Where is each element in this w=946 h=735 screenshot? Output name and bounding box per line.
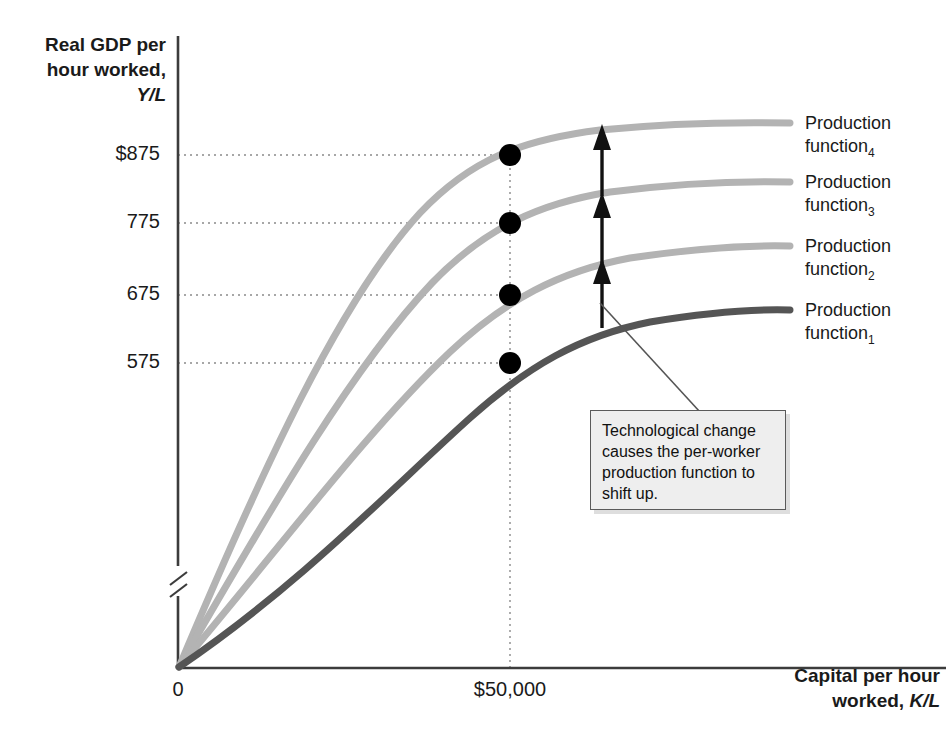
x-axis-title-line1: Capital per hour <box>620 663 940 688</box>
callout-box: Technological change causes the per-work… <box>590 410 786 510</box>
curve-label-production-function-3: Production function3 <box>805 171 891 217</box>
x-axis-title-line2: worked, K/L <box>620 688 940 713</box>
point-775 <box>499 212 521 234</box>
callout-text: Technological change causes the per-work… <box>591 411 785 504</box>
x-axis-title-symbol: K/L <box>909 690 940 711</box>
callout-line-2: causes the per-worker <box>602 441 775 462</box>
y-axis-break-icon <box>170 566 187 597</box>
curve-production-function-4 <box>179 123 790 667</box>
y-tick-label-675: 675 <box>40 282 160 305</box>
shift-arrows <box>593 124 611 328</box>
point-575 <box>499 352 521 374</box>
callout-line-3: production function to <box>602 462 775 483</box>
point-675 <box>499 284 521 306</box>
curve-label-4-line2: function4 <box>805 135 891 158</box>
point-875 <box>499 144 521 166</box>
y-tick-label-875: $875 <box>40 142 160 165</box>
y-tick-label-575: 575 <box>40 350 160 373</box>
curve-label-4-line1: Production <box>805 112 891 135</box>
x-tick-label-origin: 0 <box>98 678 258 701</box>
curve-label-1-line1: Production <box>805 299 891 322</box>
curve-label-3-line1: Production <box>805 171 891 194</box>
shift-arrow-2 <box>593 192 611 263</box>
curve-label-production-function-4: Production function4 <box>805 112 891 158</box>
production-function-figure: Real GDP per hour worked, Y/L $875 775 6… <box>0 0 946 735</box>
curve-label-1-line2: function1 <box>805 322 891 345</box>
curve-label-3-line2: function3 <box>805 194 891 217</box>
callout-line-4: shift up. <box>602 483 775 504</box>
callout-line-1: Technological change <box>602 420 775 441</box>
curve-label-2-line2: function2 <box>805 258 891 281</box>
y-axis-title-symbol: Y/L <box>0 82 166 107</box>
x-tick-label-50000: $50,000 <box>430 678 590 701</box>
curve-label-production-function-2: Production function2 <box>805 235 891 281</box>
shift-arrow-3 <box>593 124 611 196</box>
curve-label-2-line1: Production <box>805 235 891 258</box>
y-axis-title-line1: Real GDP per <box>0 32 166 57</box>
x-axis-title: Capital per hour worked, K/L <box>620 663 940 713</box>
y-axis-title: Real GDP per hour worked, Y/L <box>0 32 166 107</box>
curve-label-production-function-1: Production function1 <box>805 299 891 345</box>
production-curves <box>179 123 790 667</box>
y-axis-title-line2: hour worked, <box>0 57 166 82</box>
y-tick-label-775: 775 <box>40 210 160 233</box>
